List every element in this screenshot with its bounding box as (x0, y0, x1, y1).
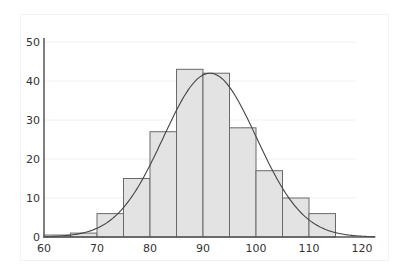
histogram-chart: 01020304050 60708090100110120 (0, 0, 407, 273)
bar-75-80 (124, 179, 151, 238)
histogram-bars (44, 69, 336, 237)
y-tick-label: 40 (26, 75, 40, 88)
y-tick-label: 10 (26, 192, 40, 205)
bar-70-75 (97, 214, 124, 237)
y-tick-label: 30 (26, 114, 40, 127)
y-tick-labels: 01020304050 (26, 36, 40, 244)
x-tick-label: 110 (299, 242, 320, 255)
bar-80-85 (150, 132, 177, 237)
bar-85-90 (177, 69, 204, 237)
y-tick-label: 20 (26, 153, 40, 166)
x-tick-label: 80 (143, 242, 157, 255)
bar-90-95 (203, 73, 230, 237)
y-tick-label: 50 (26, 36, 40, 49)
x-tick-label: 100 (246, 242, 267, 255)
x-tick-label: 120 (352, 242, 373, 255)
bar-95-100 (230, 128, 257, 237)
bar-105-110 (283, 198, 310, 237)
bar-110-115 (309, 214, 336, 237)
x-tick-label: 70 (90, 242, 104, 255)
x-tick-label: 90 (196, 242, 210, 255)
chart-canvas: 01020304050 60708090100110120 (0, 0, 407, 273)
x-tick-label: 60 (37, 242, 51, 255)
x-tick-labels: 60708090100110120 (37, 242, 373, 255)
